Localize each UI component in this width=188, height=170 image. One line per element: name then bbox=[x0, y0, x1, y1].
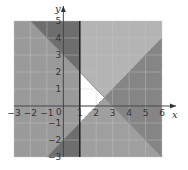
x-tick-label: 4 bbox=[126, 108, 132, 118]
y-tick-label: 5 bbox=[56, 16, 62, 26]
x-tick-label: −2 bbox=[24, 108, 37, 118]
x-tick-label: 2 bbox=[93, 108, 99, 118]
y-tick-label: 1 bbox=[56, 84, 62, 94]
x-tick-label: 5 bbox=[143, 108, 149, 118]
y-tick-label: 2 bbox=[56, 67, 62, 77]
y-axis-arrow-icon bbox=[61, 6, 66, 12]
x-tick-label: 6 bbox=[159, 108, 165, 118]
y-tick-label: 4 bbox=[56, 33, 62, 43]
y-tick-label: 3 bbox=[56, 50, 62, 60]
x-tick-label: −3 bbox=[7, 108, 20, 118]
y-tick-label: −3 bbox=[48, 152, 61, 162]
x-tick-label: −1 bbox=[40, 108, 53, 118]
y-axis-label: y bbox=[54, 3, 61, 14]
x-tick-label: 3 bbox=[110, 108, 116, 118]
x-axis-arrow-icon bbox=[170, 104, 176, 109]
y-tick-label: −2 bbox=[48, 135, 61, 145]
inequality-region-graph: −3−2−112345654321−1−2−3 x y 0 bbox=[0, 0, 188, 170]
y-tick-label: −1 bbox=[48, 118, 61, 128]
x-tick-label: 1 bbox=[77, 108, 83, 118]
origin-label: 0 bbox=[56, 107, 62, 117]
x-axis-label: x bbox=[172, 109, 178, 120]
